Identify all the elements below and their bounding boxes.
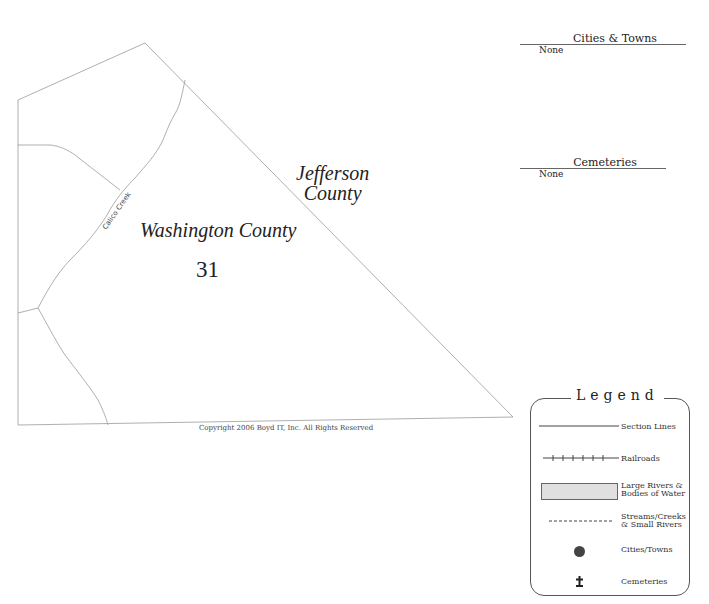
- legend-title: Legend: [571, 387, 664, 403]
- creek-label: Calico Creek: [101, 190, 133, 231]
- dashed-line-icon: [549, 519, 614, 523]
- legend-label: Railroads: [621, 455, 660, 463]
- washington-county-label: Washington County: [140, 219, 297, 242]
- cities-title: Cities & Towns: [520, 33, 686, 45]
- legend-box: Legend Section Lines Railroads Large Riv…: [530, 398, 690, 596]
- cities-value: None: [520, 45, 686, 56]
- jefferson-line2: County: [296, 183, 369, 203]
- railroad-icon: [543, 454, 619, 462]
- legend-label-line2: Bodies of Water: [621, 490, 685, 498]
- cemetery-cross-icon: [575, 576, 584, 587]
- legend-label: Streams/Creeks & Small Rivers: [621, 513, 686, 529]
- legend-label-line2: & Small Rivers: [621, 521, 686, 529]
- legend-label: Cemeteries: [621, 578, 667, 586]
- tributary-creek-line: [18, 145, 120, 190]
- cemeteries-list: Cemeteries None: [520, 157, 666, 180]
- solid-line-icon: [539, 423, 619, 429]
- city-dot-icon: [574, 546, 585, 557]
- cemeteries-value: None: [520, 169, 666, 180]
- section-number: 31: [196, 257, 219, 283]
- legend-label: Cities/Towns: [621, 546, 673, 554]
- cemeteries-title: Cemeteries: [520, 157, 666, 169]
- cities-towns-list: Cities & Towns None: [520, 33, 686, 56]
- south-creek-line: [38, 308, 108, 425]
- legend-label: Section Lines: [621, 423, 676, 431]
- calico-creek-line: [18, 80, 185, 313]
- water-box-icon: [541, 483, 618, 500]
- copyright-notice: Copyright 2006 Boyd IT, Inc. All Rights …: [199, 424, 373, 432]
- jefferson-county-label: Jefferson County: [296, 163, 369, 203]
- legend-label: Large Rivers & Bodies of Water: [621, 482, 685, 498]
- jefferson-line1: Jefferson: [296, 163, 369, 183]
